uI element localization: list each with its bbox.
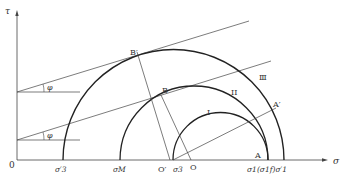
point-label-B-prime: B′: [130, 48, 138, 57]
circle-label-I: I: [207, 108, 210, 117]
origin-label: 0: [9, 160, 15, 170]
point-label-O: O: [190, 163, 197, 172]
angle-label-upper: φ: [47, 83, 53, 92]
circle-label-III: Ⅲ: [259, 73, 267, 82]
point-label-A-prime: A′: [272, 100, 281, 109]
point-label-B: B: [162, 86, 168, 95]
tick-label-sigma3: σ3: [173, 165, 183, 174]
envelope-line-lower: [17, 61, 271, 140]
circle-label-II: II: [231, 88, 237, 97]
mohr-circle-III: [63, 50, 284, 161]
angle-arc-upper: [43, 84, 44, 92]
mohr-circle-diagram: τ σ 0 φ φ B′ B A′ A O′ O I II Ⅲ σ′3 σM σ…: [0, 0, 345, 185]
tick-label-sigma1-group: σ1(σ1f)σ′1: [247, 165, 287, 174]
point-label-O-prime: O′: [158, 165, 167, 174]
tick-label-sigmaM: σM: [113, 165, 126, 174]
point-label-A: A: [254, 151, 261, 160]
tau-axis-label: τ: [5, 6, 11, 16]
tau-axis-arrow-icon: [15, 10, 18, 16]
tick-label-sigma3-prime: σ′3: [55, 165, 67, 174]
angle-label-lower: φ: [47, 131, 53, 140]
angle-arc-lower: [43, 132, 44, 140]
sigma-axis-arrow-icon: [322, 158, 328, 161]
radius-line-B-prime: [137, 52, 170, 160]
sigma-axis-label: σ: [333, 156, 340, 166]
